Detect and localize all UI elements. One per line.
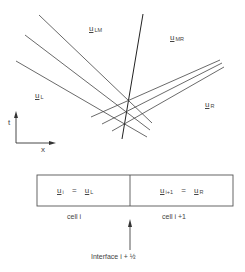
subscript: MR bbox=[175, 36, 184, 42]
u-symbol: u bbox=[85, 186, 89, 195]
u-symbol: u bbox=[89, 24, 93, 33]
x-axis-arrow-icon bbox=[49, 141, 56, 145]
interface-arrow-icon bbox=[128, 219, 132, 227]
subscript: L bbox=[40, 94, 43, 100]
u-symbol: u bbox=[57, 186, 61, 195]
t-axis-label: t bbox=[8, 119, 10, 127]
t-axis-arrow-icon bbox=[14, 111, 18, 118]
label-u-r: uR bbox=[205, 101, 214, 110]
cell-right-equation: ui+1 = uR bbox=[160, 186, 204, 195]
u-symbol: u bbox=[205, 100, 209, 109]
contact-line bbox=[122, 14, 143, 139]
subscript: i bbox=[62, 189, 63, 195]
right-wave-1 bbox=[91, 60, 220, 117]
wave-diagram bbox=[0, 0, 245, 272]
subscript: L bbox=[90, 189, 93, 195]
u-symbol: u bbox=[170, 33, 174, 42]
cell-left-caption: cell i bbox=[67, 213, 81, 220]
label-u-lm: uLM bbox=[89, 25, 102, 34]
equals-sign: = bbox=[181, 186, 186, 195]
subscript: R bbox=[210, 103, 214, 109]
interface-label: Interface i + ½ bbox=[91, 253, 136, 260]
equals-sign: = bbox=[72, 186, 77, 195]
label-u-mr: uMR bbox=[170, 34, 184, 43]
u-symbol: u bbox=[35, 91, 39, 100]
cell-right-caption: cell i +1 bbox=[162, 213, 186, 220]
x-axis-label: x bbox=[41, 146, 45, 154]
subscript: LM bbox=[94, 27, 102, 33]
u-symbol: u bbox=[160, 186, 164, 195]
u-symbol: u bbox=[194, 186, 198, 195]
label-u-l: uL bbox=[35, 92, 44, 101]
cell-left-equation: ui = uL bbox=[57, 186, 93, 195]
right-wave-2 bbox=[102, 63, 222, 124]
subscript: i+1 bbox=[165, 189, 173, 195]
subscript: R bbox=[200, 189, 204, 195]
